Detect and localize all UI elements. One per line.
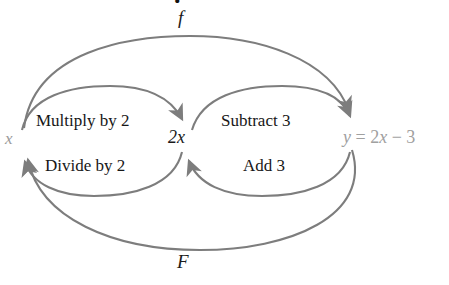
node-y-equals: = 2 — [351, 127, 379, 147]
node-label-x: x — [5, 130, 13, 147]
node-y-variable: y — [343, 127, 351, 147]
op-label-divide-by-2: Divide by 2 — [45, 157, 125, 174]
arc-label-f: f — [178, 8, 183, 27]
node-label-2x: 2x — [168, 128, 185, 146]
node-y-x-term: x — [379, 127, 387, 147]
op-label-add-3: Add 3 — [243, 157, 285, 174]
arc-label-F: F — [177, 252, 189, 271]
op-label-multiply-by-2: Multiply by 2 — [36, 112, 130, 129]
node-y-tail: − 3 — [387, 127, 415, 147]
node-label-y-equation: y = 2x − 3 — [343, 128, 415, 146]
op-label-subtract-3: Subtract 3 — [221, 112, 290, 129]
function-mapping-diagram: . f F x 2x y = 2x − 3 Multiply by 2 Subt… — [0, 0, 449, 285]
